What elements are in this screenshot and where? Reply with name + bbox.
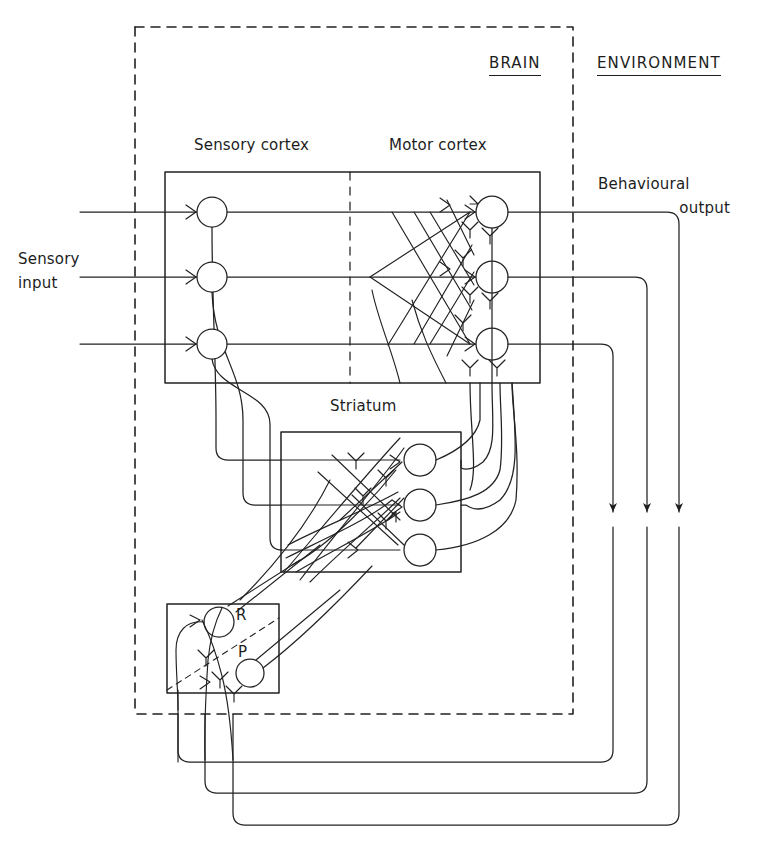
brain-boundary	[135, 27, 573, 714]
brain-domain-label: BRAIN	[489, 54, 541, 76]
behavioural-output-label-line1: Behavioural	[598, 175, 690, 195]
sensory-cortex-label: Sensory cortex	[194, 136, 309, 156]
reinforcement-to-striatum-pathways	[228, 480, 372, 668]
punishment-neuron-label: P	[238, 643, 247, 663]
reward-neuron-label: R	[236, 606, 246, 626]
striatum-label: Striatum	[330, 397, 397, 417]
figure-canvas: Sensory cortex Motor cortex Striatum BRA…	[0, 0, 768, 846]
environment-domain-label: ENVIRONMENT	[597, 54, 721, 76]
sensory-input-label-line2: input	[18, 274, 58, 294]
behavioural-output-label-line2: output	[598, 199, 730, 219]
sensory-axon-pathways	[212, 212, 492, 344]
striatal-neurons	[404, 444, 436, 566]
neural-circuit-diagram	[0, 0, 768, 846]
sensory-input-pathways	[80, 205, 212, 351]
sensory-neurons	[197, 197, 227, 359]
behavioural-output-pathways	[508, 212, 679, 512]
motor-cortex-label: Motor cortex	[389, 136, 487, 156]
sensory-input-label-line1: Sensory	[18, 250, 80, 270]
